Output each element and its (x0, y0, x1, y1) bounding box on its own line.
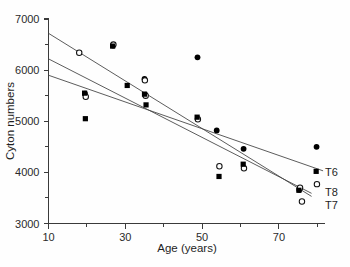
chart-figure: 30004000500060007000 Cyton numbers 10305… (0, 0, 350, 267)
data-point-markers (77, 42, 320, 204)
x-axis-title: Age (years) (157, 242, 217, 254)
x-axis-ticks (49, 224, 318, 229)
regression-line-t6 (49, 75, 324, 171)
series-label-t8: T8 (325, 186, 338, 198)
y-tick-label: 3000 (15, 218, 39, 230)
data-point-t8 (143, 102, 148, 107)
data-point-t8 (142, 92, 147, 97)
x-tick-label: 70 (273, 231, 285, 243)
y-axis-tick-labels: 30004000500060007000 (15, 13, 39, 230)
data-point-t7 (299, 199, 304, 204)
series-label-t7: T7 (325, 199, 338, 211)
data-point-t8 (110, 43, 115, 48)
y-tick-label: 5000 (15, 115, 39, 127)
series-labels: T6 T8 T7 (325, 166, 338, 211)
data-point-t8 (83, 116, 88, 121)
data-point-t8 (195, 115, 200, 120)
y-axis-group: 30004000500060007000 Cyton numbers (4, 13, 49, 230)
data-point-t6 (241, 146, 247, 152)
data-point-t8 (241, 162, 246, 167)
data-point-t6 (314, 144, 320, 150)
x-tick-label: 30 (119, 231, 131, 243)
data-point-t6 (214, 128, 220, 134)
data-point-t7 (77, 50, 82, 55)
regression-line-t8 (49, 59, 312, 193)
data-point-t8 (216, 174, 221, 179)
regression-lines (49, 33, 324, 196)
y-axis-title: Cyton numbers (4, 82, 16, 160)
y-tick-label: 7000 (15, 13, 39, 25)
series-label-t6: T6 (325, 166, 338, 178)
data-point-t6 (195, 54, 201, 60)
data-point-t7 (314, 181, 319, 186)
y-axis-ticks (44, 19, 49, 224)
y-tick-label: 4000 (15, 166, 39, 178)
data-point-t7 (217, 164, 222, 169)
x-axis-group: 10305070 Age (years) (42, 224, 325, 255)
x-tick-label: 50 (196, 231, 208, 243)
data-point-t8 (314, 169, 319, 174)
scatter-plot: 30004000500060007000 Cyton numbers 10305… (0, 0, 350, 267)
data-point-t8 (125, 83, 130, 88)
data-point-t8 (296, 188, 301, 193)
data-point-t8 (82, 91, 87, 96)
y-tick-label: 6000 (15, 64, 39, 76)
data-point-t7 (142, 78, 147, 83)
x-tick-label: 10 (42, 231, 54, 243)
x-axis-tick-labels: 10305070 (42, 231, 285, 243)
regression-line-t7 (49, 33, 312, 196)
